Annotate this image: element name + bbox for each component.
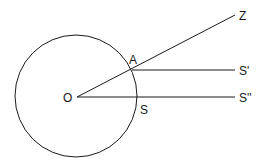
label-o: O xyxy=(63,91,72,105)
geometry-diagram: O A S Z S' S'' xyxy=(0,0,264,165)
label-z: Z xyxy=(239,9,246,23)
label-s: S xyxy=(140,103,148,117)
circle xyxy=(15,35,137,157)
label-s-prime: S' xyxy=(239,64,249,78)
label-a: A xyxy=(129,53,137,67)
label-s-double-prime: S'' xyxy=(239,91,252,105)
line-o-z xyxy=(77,15,235,97)
